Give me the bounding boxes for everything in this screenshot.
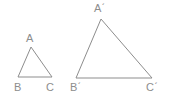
vertex-label-c: C	[46, 82, 54, 93]
triangle-abc	[18, 47, 52, 77]
vertex-label-a-prime: Aˊ	[94, 3, 105, 14]
vertex-label-b: B	[14, 82, 21, 93]
triangles-canvas	[0, 0, 170, 102]
triangle-abc-prime	[76, 19, 152, 78]
geometry-figure: A B C Aˊ Bˊ Cˊ	[0, 0, 170, 102]
vertex-label-c-prime: Cˊ	[146, 82, 158, 93]
vertex-label-b-prime: Bˊ	[70, 82, 81, 93]
vertex-label-a: A	[26, 33, 33, 44]
